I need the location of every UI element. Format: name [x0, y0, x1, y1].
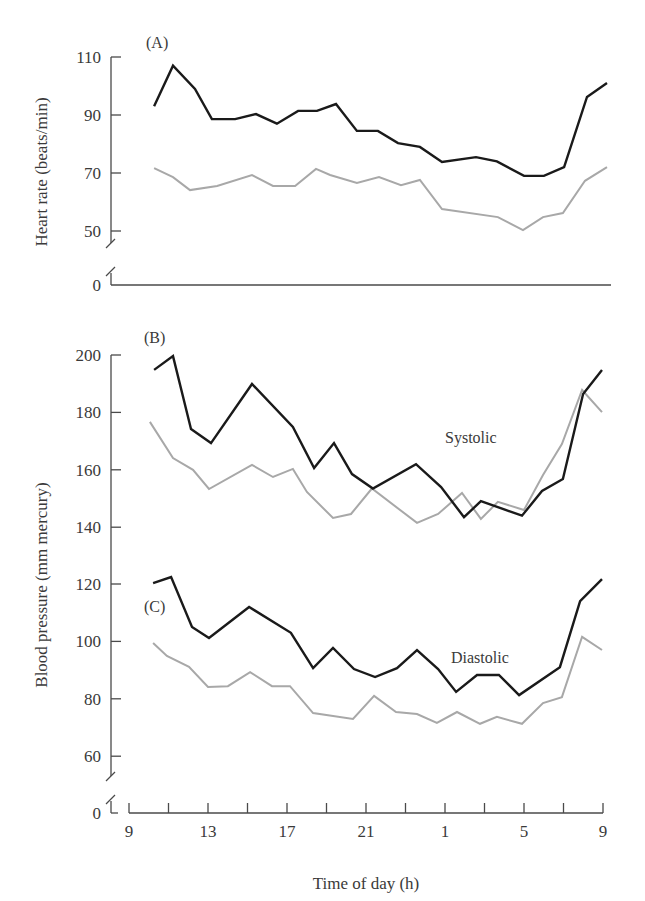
y-tick-label: 180 — [76, 403, 102, 422]
y-tick-label: 50 — [84, 222, 101, 241]
panel-c-label: (C) — [144, 598, 165, 616]
blood-pressure-y-axis-title: Blood pressure (mm mercury) — [32, 482, 51, 687]
x-tick-label: 13 — [200, 822, 217, 841]
y-tick-label: 80 — [84, 690, 101, 709]
panel-a-y-axis: 1109070500 — [76, 48, 611, 295]
chart-figure: (A) 1109070500 Heart rate (beats/min) (B… — [0, 0, 645, 901]
series-line — [154, 66, 607, 176]
series-line — [150, 390, 602, 523]
panel-c-y-axis: 12010080600 — [76, 575, 122, 823]
y-tick-label: 90 — [84, 106, 101, 125]
y-tick-label: 100 — [76, 632, 102, 651]
panel-a-series — [154, 66, 607, 230]
panel-b-series — [150, 356, 602, 523]
panel-b-y-axis: 200180160140 — [76, 346, 122, 776]
y-tick-label-zero: 0 — [93, 276, 102, 295]
y-tick-label-zero: 0 — [93, 804, 102, 823]
x-tick-label: 9 — [125, 822, 134, 841]
panel-a-label: (A) — [146, 34, 168, 52]
x-tick-label: 21 — [358, 822, 375, 841]
panel-b-label: (B) — [144, 329, 165, 347]
series-line — [153, 577, 602, 695]
diastolic-annotation: Diastolic — [451, 649, 509, 666]
x-axis: 9131721159 — [125, 803, 608, 841]
series-line — [153, 637, 602, 724]
chart-canvas: (A) 1109070500 Heart rate (beats/min) (B… — [0, 0, 645, 901]
y-tick-label: 110 — [76, 48, 101, 67]
systolic-annotation: Systolic — [445, 429, 497, 447]
panel-a-y-axis-title: Heart rate (beats/min) — [32, 97, 51, 246]
x-tick-label: 5 — [520, 822, 529, 841]
x-axis-title: Time of day (h) — [313, 874, 420, 893]
y-tick-label: 160 — [76, 461, 102, 480]
x-tick-label: 17 — [279, 822, 297, 841]
panel-a: (A) 1109070500 Heart rate (beats/min) — [32, 34, 611, 295]
y-tick-label: 140 — [76, 518, 102, 537]
y-tick-label: 200 — [76, 346, 102, 365]
y-tick-label: 70 — [84, 164, 101, 183]
x-tick-label: 1 — [441, 822, 450, 841]
x-tick-label: 9 — [599, 822, 608, 841]
y-tick-label: 60 — [84, 747, 101, 766]
y-tick-label: 120 — [76, 575, 102, 594]
panel-c-series — [153, 577, 602, 724]
panel-c: (C) 12010080600 Diastolic — [76, 575, 603, 823]
panel-b: (B) 200180160140 Systolic — [76, 329, 603, 776]
